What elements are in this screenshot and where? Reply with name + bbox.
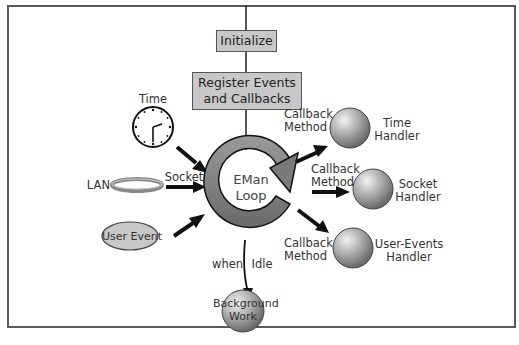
user-event-label: User Event (102, 230, 158, 243)
handler-line2: Handler (372, 130, 422, 143)
register-label-line1: Register Events (193, 75, 301, 91)
time-handler-label: Time Handler (372, 117, 422, 143)
callback-method-label-1: Callback Method (284, 108, 324, 134)
idle-label: Idle (250, 258, 274, 271)
callback-line2: Method (284, 250, 324, 263)
callback-line2: Method (311, 176, 351, 189)
loop-line2: Loop (231, 188, 271, 204)
time-handler-sphere (330, 108, 370, 148)
lan-label: LAN (80, 179, 110, 192)
callback-line2: Method (284, 121, 324, 134)
initialize-label: Initialize (217, 31, 276, 50)
loop-line1: EMan (231, 172, 271, 188)
background-line2: Work (213, 310, 273, 323)
when-label: when (212, 258, 242, 271)
eman-loop-label: EMan Loop (231, 172, 271, 204)
initialize-box: Initialize (216, 30, 277, 52)
user-events-handler-sphere (333, 228, 373, 268)
handler-line2: Handler (393, 191, 443, 204)
background-line1: Background (213, 297, 273, 310)
callback-method-label-2: Callback Method (311, 163, 351, 189)
register-label-line2: and Callbacks (193, 91, 301, 107)
callback-method-label-3: Callback Method (284, 237, 324, 263)
time-label: Time (138, 93, 168, 106)
lan-ring-icon (112, 179, 162, 191)
socket-label: Socket (164, 171, 204, 184)
input-arrows (166, 147, 196, 236)
background-work-label: Background Work (213, 297, 273, 323)
user-events-handler-label: User-Events Handler (374, 238, 444, 264)
clock-icon (133, 107, 173, 147)
idle-arrow (244, 240, 248, 292)
socket-handler-label: Socket Handler (393, 178, 443, 204)
handler-line2: Handler (374, 251, 444, 264)
register-events-box: Register Events and Callbacks (192, 72, 302, 110)
